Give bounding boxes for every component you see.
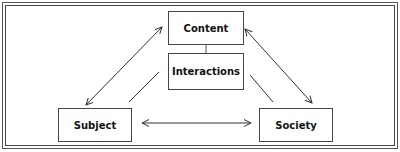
edge-subject-content <box>86 27 162 105</box>
node-society-label: Society <box>275 120 317 131</box>
node-subject: Subject <box>58 108 132 142</box>
edge-content-society <box>245 29 312 103</box>
node-interactions-label: Interactions <box>172 66 240 77</box>
edge-subject-interactions <box>129 72 159 102</box>
node-content: Content <box>168 11 244 45</box>
node-interactions: Interactions <box>168 53 244 90</box>
node-society: Society <box>259 108 333 142</box>
edge-society-interactions <box>250 75 273 102</box>
node-subject-label: Subject <box>74 120 116 131</box>
node-content-label: Content <box>184 23 229 34</box>
